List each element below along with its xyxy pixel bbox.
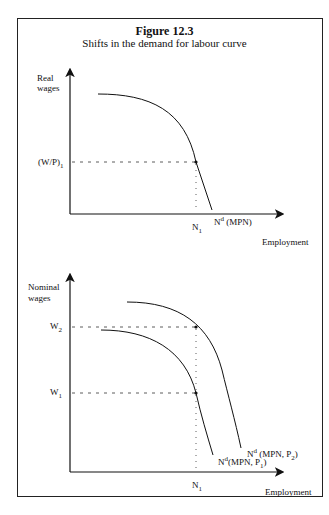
top-y-tick: (W/P)1 bbox=[38, 157, 64, 171]
bottom-y-tick-w2: W2 bbox=[50, 321, 62, 335]
bottom-x-label: Employment bbox=[265, 487, 312, 497]
top-curve-label: Nd (MPN) bbox=[214, 214, 252, 227]
top-x-label: Employment bbox=[262, 237, 309, 247]
top-x-tick: N1 bbox=[192, 222, 202, 236]
top-y-label-2: wages bbox=[37, 83, 60, 93]
bottom-y-tick-w1: W1 bbox=[50, 387, 62, 401]
figure-title: Shifts in the demand for labour curve bbox=[0, 37, 329, 49]
bottom-y-label-2: wages bbox=[28, 293, 51, 303]
figure-frame bbox=[17, 18, 323, 497]
bottom-x-tick: N1 bbox=[192, 480, 202, 494]
curve-label-p1: Nd(MPN, P1) bbox=[218, 454, 267, 471]
top-y-label-1: Real bbox=[37, 73, 54, 83]
bottom-y-label-1: Nominal bbox=[28, 282, 60, 292]
